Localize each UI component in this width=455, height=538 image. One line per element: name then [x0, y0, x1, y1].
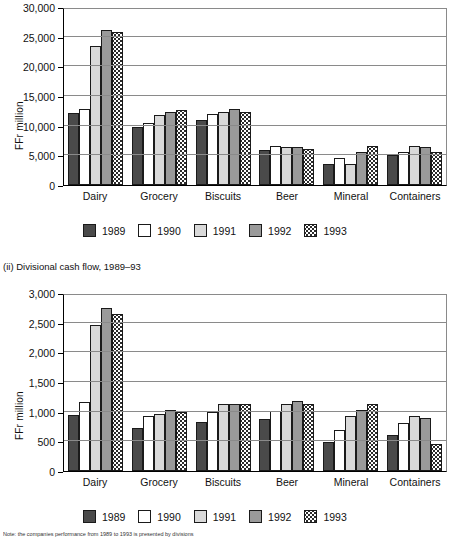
legend-label-1991: 1991 [213, 511, 236, 523]
y-tick-label: 2,000 [29, 347, 55, 359]
x-axis-label: Beer [255, 476, 319, 488]
y-tick-mark [58, 294, 63, 295]
legend-label-1993: 1993 [323, 511, 346, 523]
bar-dairy-1992 [101, 30, 112, 185]
bar-biscuits-1990 [207, 412, 218, 471]
bar-beer-1989 [259, 419, 270, 471]
bar-dairy-1993 [112, 314, 123, 471]
y-tick-label: 2,500 [29, 318, 55, 330]
bar-containers-1990 [398, 423, 409, 471]
legend-item-1990: 1990 [138, 224, 180, 237]
y-tick-mark [58, 442, 63, 443]
bar-grocery-1993 [176, 412, 187, 471]
bar-beer-1991 [281, 404, 292, 471]
bar-biscuits-1989 [196, 422, 207, 471]
bar-mineral-1989 [323, 164, 334, 185]
chart1-x-axis-labels: DairyGroceryBiscuitsBeerMineralContainer… [63, 190, 447, 202]
x-axis-label: Dairy [63, 476, 127, 488]
y-tick-label: 1,500 [29, 377, 55, 389]
bar-biscuits-1992 [229, 109, 240, 185]
bar-dairy-1993 [112, 32, 123, 185]
bar-beer-1993 [303, 404, 314, 471]
legend-swatch-1991 [194, 224, 207, 237]
bar-dairy-1992 [101, 308, 112, 471]
legend-swatch-1990 [138, 510, 151, 523]
legend-item-1990: 1990 [138, 510, 180, 523]
bar-containers-1993 [431, 152, 442, 185]
y-tick-label: 0 [49, 180, 55, 192]
bar-containers-1991 [409, 416, 420, 471]
bar-biscuits-1991 [218, 404, 229, 471]
bar-dairy-1989 [68, 415, 79, 471]
bar-dairy-1990 [79, 109, 90, 185]
y-tick-label: 3,000 [29, 288, 55, 300]
gridline [64, 351, 446, 352]
bar-containers-1992 [420, 147, 431, 185]
legend-item-1992: 1992 [249, 510, 291, 523]
y-tick-mark [58, 353, 63, 354]
x-axis-label: Dairy [63, 190, 127, 202]
chart1-plot-area [63, 8, 447, 186]
legend-label-1990: 1990 [157, 511, 180, 523]
legend-label-1989: 1989 [102, 511, 125, 523]
x-axis-label: Biscuits [191, 190, 255, 202]
y-tick-label: 10,000 [23, 121, 55, 133]
gridline [64, 65, 446, 66]
legend-item-1993: 1993 [304, 224, 346, 237]
legend-item-1992: 1992 [249, 224, 291, 237]
bar-grocery-1991 [154, 414, 165, 471]
y-tick-label: 0 [49, 466, 55, 478]
y-tick-mark [58, 472, 63, 473]
bar-mineral-1993 [367, 146, 378, 185]
legend-swatch-1993 [304, 224, 317, 237]
bar-mineral-1990 [334, 430, 345, 471]
figure-note: Note: the companies performance from 198… [3, 531, 453, 537]
bar-grocery-1993 [176, 110, 187, 185]
gridline [64, 154, 446, 155]
legend-swatch-1992 [249, 510, 262, 523]
bar-biscuits-1993 [240, 404, 251, 471]
y-tick-mark [58, 67, 63, 68]
bar-grocery-1992 [165, 112, 176, 185]
y-tick-label: 15,000 [23, 91, 55, 103]
x-axis-label: Mineral [319, 190, 383, 202]
legend-item-1989: 1989 [83, 224, 125, 237]
bar-dairy-1990 [79, 402, 90, 471]
bar-biscuits-1991 [218, 112, 229, 185]
gridline [64, 125, 446, 126]
bar-containers-1992 [420, 418, 431, 471]
legend-label-1992: 1992 [268, 225, 291, 237]
y-tick-mark [58, 127, 63, 128]
bar-mineral-1991 [345, 164, 356, 185]
legend-label-1992: 1992 [268, 511, 291, 523]
y-tick-label: 1,000 [29, 407, 55, 419]
bar-grocery-1989 [132, 428, 143, 471]
bar-dairy-1991 [90, 325, 101, 471]
x-axis-label: Grocery [127, 476, 191, 488]
x-axis-label: Containers [383, 190, 447, 202]
legend-item-1991: 1991 [194, 510, 236, 523]
gridline [64, 381, 446, 382]
gridline [64, 95, 446, 96]
bar-biscuits-1992 [229, 404, 240, 471]
chart2-legend: 19891990199119921993 [83, 510, 360, 523]
y-tick-mark [58, 186, 63, 187]
gridline [64, 322, 446, 323]
legend-swatch-1993 [304, 510, 317, 523]
chart2-x-axis-labels: DairyGroceryBiscuitsBeerMineralContainer… [63, 476, 447, 488]
y-tick-label: 20,000 [23, 61, 55, 73]
legend-swatch-1992 [249, 224, 262, 237]
bar-beer-1990 [270, 146, 281, 185]
bar-grocery-1989 [132, 127, 143, 185]
gridline [64, 411, 446, 412]
y-tick-mark [58, 324, 63, 325]
chart2-subtitle: (ii) Divisional cash flow, 1989–93 [3, 261, 141, 272]
legend-swatch-1989 [83, 224, 96, 237]
legend-swatch-1990 [138, 224, 151, 237]
legend-swatch-1991 [194, 510, 207, 523]
bar-mineral-1989 [323, 442, 334, 471]
bar-containers-1990 [398, 152, 409, 185]
legend-item-1993: 1993 [304, 510, 346, 523]
gridline [64, 440, 446, 441]
y-tick-label: 5,000 [29, 150, 55, 162]
